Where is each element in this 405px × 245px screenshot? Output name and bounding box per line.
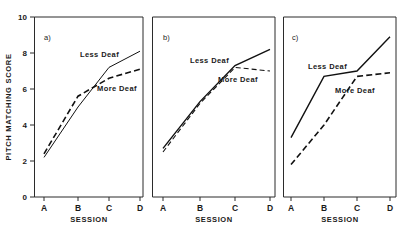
- y-tick-label-4: 4: [23, 121, 28, 130]
- panel-a-label-more-deaf: More Deaf: [97, 84, 137, 93]
- panel-c-x-label-D: D: [387, 203, 393, 213]
- panel-b-x-label-C: C: [232, 203, 238, 213]
- panel-b-tag: b): [163, 33, 170, 42]
- panel-c-label-less-deaf: Less Deaf: [308, 62, 347, 71]
- panel-b-x-label-D: D: [267, 203, 273, 213]
- panel-a-label-less-deaf: Less Deaf: [80, 50, 119, 59]
- panel-a-x-label-C: C: [106, 203, 112, 213]
- panel-b-x-label-B: B: [197, 203, 203, 213]
- y-tick-label-2: 2: [23, 157, 28, 166]
- panel-a-x-label-D: D: [137, 203, 143, 213]
- panel-a-tag: a): [44, 33, 51, 42]
- panel-c-x-axis-title: SESSION: [321, 215, 359, 224]
- panel-b-label-more-deaf: More Deaf: [218, 75, 258, 84]
- panel-a-series-less-deaf: [44, 51, 140, 157]
- y-tick-label-10: 10: [18, 13, 27, 22]
- panel-b-x-label-A: A: [160, 203, 166, 213]
- panel-c-label-more-deaf: More Deaf: [335, 86, 375, 95]
- panel-c-x-label-A: A: [288, 203, 294, 213]
- y-tick-label-0: 0: [23, 193, 28, 202]
- panel-b-label-less-deaf: Less Deaf: [190, 56, 229, 65]
- y-tick-label-8: 8: [23, 49, 28, 58]
- panel-b: A B C D SESSION b) Less Deaf More Deaf: [153, 17, 276, 224]
- panel-c: A B C D SESSION c) Less Deaf More Deaf: [284, 17, 397, 224]
- figure-container: 0 2 4 6 8 10 PITCH MATCHING SCORE A B C …: [0, 0, 405, 245]
- panel-a-x-axis-title: SESSION: [70, 215, 108, 224]
- y-axis-title: PITCH MATCHING SCORE: [4, 53, 13, 160]
- panel-b-x-axis-title: SESSION: [195, 215, 233, 224]
- panel-a-series-more-deaf: [44, 69, 140, 154]
- panel-c-tag: c): [292, 33, 299, 42]
- panel-c-x-label-C: C: [354, 203, 360, 213]
- y-tick-label-6: 6: [23, 85, 28, 94]
- panel-a: A B C D SESSION a) Less Deaf More Deaf: [35, 17, 144, 224]
- panel-c-x-label-B: B: [321, 203, 327, 213]
- panel-a-x-label-A: A: [41, 203, 47, 213]
- panel-a-x-label-B: B: [75, 203, 81, 213]
- y-axis-group: 0 2 4 6 8 10 PITCH MATCHING SCORE: [4, 13, 35, 202]
- chart-svg: 0 2 4 6 8 10 PITCH MATCHING SCORE A B C …: [0, 0, 405, 245]
